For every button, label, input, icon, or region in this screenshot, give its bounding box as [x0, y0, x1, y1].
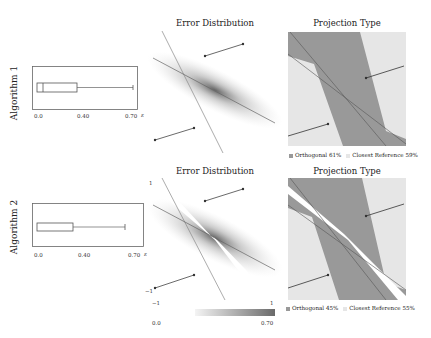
boxplot-tick-040: 0.40: [77, 113, 89, 119]
legend-closest-2: Closest Reference 55%: [349, 305, 415, 311]
projection-type-plot-2: [288, 178, 406, 300]
legend-orthogonal-1: Orthogonal 61%: [295, 152, 341, 158]
y-tick-top: 1: [149, 180, 153, 186]
boxplot2-tick-0: 0.0: [34, 252, 43, 258]
boxplot-algorithm-1: [32, 66, 138, 110]
closest-swatch: [343, 307, 347, 311]
legend-orthogonal-2: Orthogonal 45%: [292, 305, 338, 311]
legend-2: Orthogonal 45% Closest Reference 55%: [286, 305, 415, 311]
projection-type-title-2: Projection Type: [288, 166, 406, 176]
colorbar-max: 0.70: [261, 320, 273, 326]
error-distribution-plot-1: [155, 28, 275, 153]
legend-1: Orthogonal 61% Closest Reference 59%: [289, 152, 418, 158]
legend-closest-1: Closest Reference 59%: [352, 152, 418, 158]
y-tick-bottom: −1: [145, 288, 153, 294]
closest-swatch: [346, 154, 350, 158]
boxplot-axis-symbol: ε: [141, 112, 144, 118]
boxplot2-tick-040: 0.40: [78, 252, 90, 258]
row-label-algorithm-1: Algorithm 1: [9, 63, 19, 123]
boxplot2-axis-symbol: ε: [144, 251, 147, 257]
projection-type-title-1: Projection Type: [288, 18, 406, 28]
x-tick-left: −1: [152, 300, 160, 306]
projection-type-plot-1: [288, 32, 406, 146]
x-tick-right: 1: [270, 300, 274, 306]
boxplot-algorithm-2: [32, 203, 144, 247]
error-distribution-title-1: Error Distribution: [155, 18, 275, 28]
error-distribution-title-2: Error Distribution: [155, 166, 275, 176]
orthogonal-swatch: [286, 307, 290, 311]
boxplot-tick-070: 0.70: [125, 113, 137, 119]
boxplot-tick-0: 0.0: [34, 113, 43, 119]
row-label-algorithm-2: Algorithm 2: [9, 197, 19, 257]
colorbar: [195, 309, 275, 316]
colorbar-min: 0.0: [152, 320, 161, 326]
error-distribution-plot-2: [155, 178, 275, 300]
boxplot2-tick-070: 0.70: [128, 252, 140, 258]
orthogonal-swatch: [289, 154, 293, 158]
